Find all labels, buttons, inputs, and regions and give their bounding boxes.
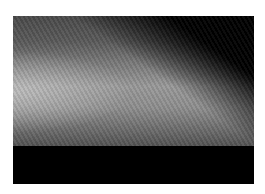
grayscale-photo — [13, 16, 254, 184]
bottom-shadow — [13, 146, 254, 184]
